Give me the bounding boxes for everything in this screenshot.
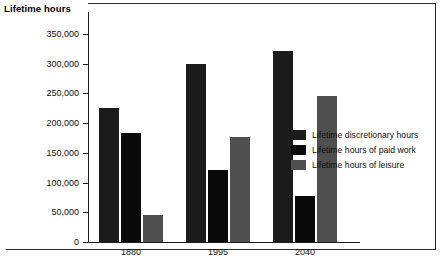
y-axis-tick-label: 150,000 (46, 148, 79, 158)
y-axis-tick (83, 64, 88, 65)
y-axis-tick-label: 350,000 (46, 29, 79, 39)
y-axis-title: Lifetime hours (4, 3, 71, 14)
frame-top-border (88, 3, 436, 4)
bar (186, 64, 206, 242)
y-axis-tick-label: 250,000 (46, 88, 79, 98)
bar (143, 215, 163, 242)
bar (295, 196, 315, 242)
y-axis-tick-label: 300,000 (46, 59, 79, 69)
y-axis-tick (83, 183, 88, 184)
y-axis-tick (83, 212, 88, 213)
bar (230, 137, 250, 242)
legend-item: Lifetime hours of leisure (291, 157, 418, 172)
y-axis-tick-label: 0 (74, 237, 79, 247)
y-axis-tick (83, 153, 88, 154)
x-axis-tick-label: 2040 (295, 247, 315, 257)
y-axis-tick (83, 123, 88, 124)
bar (99, 108, 119, 242)
y-axis-tick (83, 242, 88, 243)
chart-legend: Lifetime discretionary hoursLifetime hou… (291, 127, 418, 172)
bar (273, 51, 293, 242)
frame-right-border (435, 3, 436, 250)
y-axis-tick-label: 50,000 (51, 207, 79, 217)
legend-item: Lifetime discretionary hours (291, 127, 418, 142)
bar (121, 133, 141, 242)
y-axis-tick-label: 100,000 (46, 178, 79, 188)
legend-item-label: Lifetime discretionary hours (312, 130, 418, 140)
x-axis-tick-label: 1880 (121, 247, 141, 257)
legend-item-label: Lifetime hours of paid work (312, 145, 416, 155)
legend-swatch-icon (291, 160, 306, 170)
legend-swatch-icon (291, 130, 306, 140)
y-axis-tick (83, 34, 88, 35)
legend-item: Lifetime hours of paid work (291, 142, 418, 157)
bar (208, 170, 228, 243)
y-axis-line (88, 12, 89, 243)
y-axis-tick (83, 93, 88, 94)
legend-swatch-icon (291, 145, 306, 155)
legend-item-label: Lifetime hours of leisure (312, 160, 404, 170)
x-axis-tick-label: 1995 (208, 247, 228, 257)
y-axis-tick-label: 200,000 (46, 118, 79, 128)
x-axis-line (88, 242, 360, 243)
bar-chart: Lifetime hours 050,000100,000150,000200,… (0, 0, 445, 270)
